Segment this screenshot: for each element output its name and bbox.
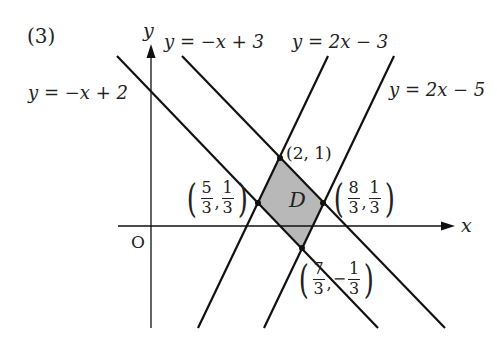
- numerator: 5: [202, 180, 212, 197]
- equation-label-y-neg-x-plus-2: y = −x + 2: [28, 84, 128, 102]
- y-axis-arrow-icon: [147, 44, 156, 58]
- vertex-label-5-3-1-3: ( 53 , 13 ): [184, 178, 250, 218]
- x-axis-label: x: [461, 216, 472, 235]
- numerator: 1: [223, 180, 233, 197]
- numerator: 1: [370, 180, 380, 197]
- denominator: 3: [370, 200, 380, 217]
- equation-label-y-neg-x-plus-3: y = −x + 3: [164, 33, 264, 51]
- vertex-dot-5-3-1-3: [255, 200, 261, 206]
- region-label: D: [289, 190, 306, 211]
- denominator: 3: [223, 200, 233, 217]
- diagram-canvas: (3) y x O y = −x + 3 y = 2x − 3 y = −x +…: [0, 0, 497, 355]
- x-axis-arrow-icon: [441, 222, 455, 231]
- numerator: 8: [349, 180, 359, 197]
- vertex-dot-8-3-1-3: [320, 200, 326, 206]
- numerator: 1: [349, 261, 359, 278]
- vertex-dot-2-1: [277, 155, 283, 161]
- denominator: 3: [349, 200, 359, 217]
- denominator: 3: [314, 281, 324, 298]
- origin-label: O: [131, 234, 145, 251]
- equation-label-y-2x-minus-5: y = 2x − 5: [389, 81, 485, 99]
- problem-number: (3): [27, 26, 55, 46]
- y-axis-label: y: [143, 21, 154, 40]
- vertex-label-2-1: (2, 1): [286, 145, 332, 162]
- denominator: 3: [202, 200, 212, 217]
- numerator: 7: [314, 261, 324, 278]
- equation-label-y-2x-minus-3: y = 2x − 3: [292, 33, 388, 51]
- vertex-label-8-3-1-3: ( 83 , 13 ): [331, 178, 397, 218]
- denominator: 3: [349, 281, 359, 298]
- vertex-dot-7-3-neg1-3: [299, 245, 305, 251]
- vertex-label-7-3-neg1-3: ( 73 , − 13 ): [296, 259, 377, 299]
- minus-sign: −: [333, 271, 346, 287]
